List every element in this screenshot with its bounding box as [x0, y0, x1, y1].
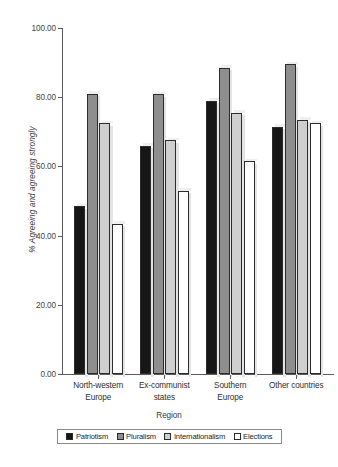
- bar-elections-other-countries: [310, 123, 321, 374]
- y-tick-label: 20.00: [36, 300, 56, 309]
- y-tick-mark: [58, 166, 62, 167]
- bar-shadow-right: [255, 164, 258, 377]
- x-group-tick: [296, 375, 297, 379]
- bar-internationalism-north-western-europe: [99, 123, 110, 374]
- legend-label: Internationalism: [174, 432, 225, 441]
- y-tick-mark: [58, 374, 62, 375]
- legend-label: Pluralism: [126, 432, 156, 441]
- x-group-label-line: North-western: [65, 380, 131, 392]
- y-tick-label: 80.00: [36, 93, 56, 102]
- bar-face: [231, 113, 242, 374]
- bar-shadow-right: [189, 193, 192, 376]
- bar-face: [285, 64, 296, 374]
- x-group-tick: [164, 375, 165, 379]
- bar-chart-figure: % Agreeing and agreeing strongly 0.0020.…: [0, 0, 338, 467]
- y-tick-100-00: 100.00: [62, 28, 63, 29]
- legend-item-internationalism[interactable]: Internationalism: [164, 432, 225, 441]
- caption-fragment: [8, 456, 238, 462]
- bar-face: [165, 140, 176, 374]
- plot-area: 0.0020.0040.0060.0080.00100.00 North-wes…: [62, 28, 334, 375]
- bar-patriotism-north-western-europe: [74, 206, 85, 374]
- y-tick-0-00: 0.00: [62, 374, 63, 375]
- chart-legend: PatriotismPluralismInternationalismElect…: [57, 429, 282, 444]
- bar-face: [178, 191, 189, 374]
- x-group-label-line: Ex-communist: [131, 380, 197, 392]
- bar-face: [272, 127, 283, 374]
- y-axis-line: [62, 28, 63, 375]
- legend-label: Patriotism: [76, 432, 108, 441]
- bar-elections-ex-communist-states: [178, 191, 189, 374]
- bar-internationalism-other-countries: [297, 120, 308, 374]
- bar-pluralism-other-countries: [285, 64, 296, 374]
- bar-face: [112, 224, 123, 375]
- legend-label: Elections: [243, 432, 272, 441]
- y-tick-40-00: 40.00: [62, 236, 63, 237]
- legend-swatch-icon: [66, 433, 73, 440]
- bar-elections-southern-europe: [244, 161, 255, 374]
- bar-internationalism-ex-communist-states: [165, 140, 176, 374]
- y-tick-60-00: 60.00: [62, 166, 63, 167]
- bar-face: [99, 123, 110, 374]
- bar-face: [140, 146, 151, 374]
- legend-item-patriotism[interactable]: Patriotism: [66, 432, 108, 441]
- bar-patriotism-other-countries: [272, 127, 283, 374]
- y-tick-20-00: 20.00: [62, 305, 63, 306]
- bar-internationalism-southern-europe: [231, 113, 242, 374]
- x-group-label-other-countries: Other countries: [263, 380, 329, 392]
- x-group-label-line: Southern: [197, 380, 263, 392]
- bar-face: [244, 161, 255, 374]
- x-group-label-line: Europe: [197, 392, 263, 404]
- x-group-label-southern-europe: SouthernEurope: [197, 380, 263, 403]
- bar-face: [310, 123, 321, 374]
- y-axis-title: % Agreeing and agreeing strongly: [28, 90, 37, 290]
- x-axis-title: Region: [0, 411, 338, 420]
- bar-face: [206, 101, 217, 374]
- x-group-label-north-western-europe: North-westernEurope: [65, 380, 131, 403]
- bar-shadow-right: [321, 126, 324, 377]
- y-tick-mark: [58, 28, 62, 29]
- bar-face: [219, 68, 230, 374]
- bar-pluralism-north-western-europe: [87, 94, 98, 374]
- x-group-label-line: Europe: [65, 392, 131, 404]
- x-group-tick: [98, 375, 99, 379]
- x-group-label-line: Other countries: [263, 380, 329, 392]
- y-tick-label: 0.00: [40, 370, 56, 379]
- x-axis-line: [62, 374, 334, 375]
- bar-face: [153, 94, 164, 374]
- legend-swatch-icon: [164, 433, 171, 440]
- y-tick-label: 40.00: [36, 231, 56, 240]
- bar-face: [74, 206, 85, 374]
- bar-pluralism-ex-communist-states: [153, 94, 164, 374]
- legend-swatch-icon: [234, 433, 241, 440]
- x-group-label-ex-communist-states: Ex-communiststates: [131, 380, 197, 403]
- y-tick-label: 60.00: [36, 162, 56, 171]
- bar-face: [87, 94, 98, 374]
- bar-pluralism-southern-europe: [219, 68, 230, 374]
- y-tick-mark: [58, 97, 62, 98]
- bar-shadow-right: [123, 226, 126, 377]
- legend-swatch-icon: [117, 433, 124, 440]
- bar-patriotism-ex-communist-states: [140, 146, 151, 374]
- legend-item-pluralism[interactable]: Pluralism: [117, 432, 156, 441]
- y-tick-mark: [58, 305, 62, 306]
- legend-item-elections[interactable]: Elections: [234, 432, 273, 441]
- bar-face: [297, 120, 308, 374]
- bar-patriotism-southern-europe: [206, 101, 217, 374]
- bar-elections-north-western-europe: [112, 224, 123, 375]
- x-group-label-line: states: [131, 392, 197, 404]
- y-tick-mark: [58, 236, 62, 237]
- y-tick-80-00: 80.00: [62, 97, 63, 98]
- x-group-tick: [230, 375, 231, 379]
- y-tick-label: 100.00: [32, 24, 56, 33]
